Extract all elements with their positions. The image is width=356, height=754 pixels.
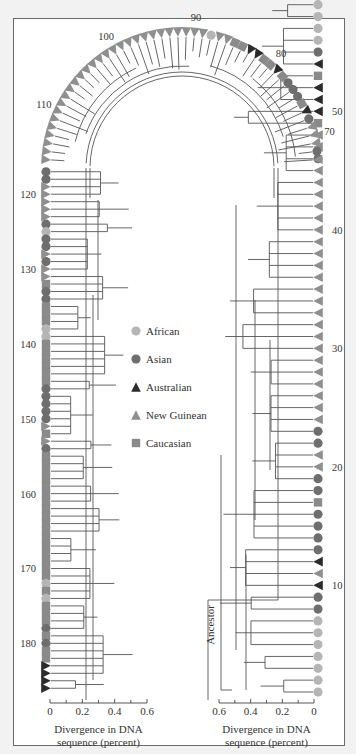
axis-tick-label: 0.6 [140, 705, 154, 717]
leaf-marker-new-guinean [313, 569, 323, 579]
leaf-marker-asian [313, 533, 322, 542]
legend-marker-asian [131, 354, 140, 363]
axis-title-line1: Divergence in DNA [222, 723, 310, 735]
legend-marker-new-guinean [131, 410, 141, 420]
leaf-marker-asian [313, 522, 322, 531]
legend-label: African [146, 325, 180, 337]
leaf-marker-caucasian [42, 310, 50, 318]
leaf-marker-african [313, 628, 322, 637]
tree-branches [51, 0, 313, 700]
leaf-marker-caucasian [42, 459, 50, 467]
leaf-marker-australian [41, 683, 51, 693]
leaf-marker-caucasian [42, 654, 50, 662]
leaf-marker-caucasian [42, 504, 50, 512]
leaf-marker-caucasian [42, 527, 50, 535]
leaf-marker-australian [313, 59, 323, 69]
leaf-marker-new-guinean [313, 284, 323, 294]
right-axis: 0.60.40.20Divergence in DNAsequence (per… [212, 699, 317, 749]
leaf-number-90: 90 [191, 12, 202, 23]
leaf-marker-caucasian [42, 549, 50, 557]
leaf-marker-new-guinean [313, 272, 323, 282]
leaf-marker-new-guinean [313, 391, 323, 401]
leaf-marker-australian [313, 557, 323, 567]
legend-marker-australian [131, 382, 141, 392]
leaf-number-40: 40 [332, 225, 343, 236]
axis-tick-label: 0.2 [275, 705, 289, 717]
leaf-marker-new-guinean [41, 155, 51, 165]
leaf-marker-african [313, 664, 322, 673]
leaf-marker-caucasian [42, 452, 50, 460]
leaf-marker-caucasian [42, 340, 50, 348]
leaf-marker-new-guinean [313, 367, 323, 377]
leaf-marker-new-guinean [313, 261, 323, 271]
leaf-number-10: 10 [332, 580, 343, 591]
leaf-number-150: 150 [20, 414, 36, 425]
leaf-marker-african [206, 30, 217, 41]
leaf-marker-caucasian [42, 474, 50, 482]
phylogenetic-tree: 1020304050607080901001101201301401501601… [0, 0, 356, 754]
leaf-marker-new-guinean [313, 237, 323, 247]
leaf-marker-new-guinean [156, 28, 167, 39]
leaf-marker-new-guinean [313, 190, 323, 200]
leaf-marker-asian [313, 510, 322, 519]
leaf-marker-australian [313, 107, 323, 117]
leaf-number-130: 130 [20, 264, 36, 275]
leaf-marker-new-guinean [41, 204, 51, 214]
leaf-marker-new-guinean [313, 355, 323, 365]
leaf-number-160: 160 [20, 489, 36, 500]
leaf-marker-new-guinean [313, 249, 323, 259]
leaf-marker-new-guinean [197, 28, 208, 39]
leaf-marker-african [41, 332, 50, 341]
leaf-marker-new-guinean [313, 332, 323, 342]
leaf-marker-new-guinean [313, 201, 323, 211]
leaf-marker-caucasian [42, 489, 50, 497]
leaf-marker-caucasian [42, 467, 50, 475]
leaf-marker-caucasian [42, 430, 50, 438]
axis-title-line1: Divergence in DNA [54, 723, 142, 735]
leaf-marker-asian [313, 427, 322, 436]
leaf-marker-new-guinean [42, 146, 53, 157]
leaf-marker-african [313, 24, 322, 33]
leaf-marker-asian [313, 439, 322, 448]
leaf-marker-caucasian [42, 302, 50, 310]
legend-label: Caucasian [146, 437, 192, 449]
leaf-marker-african [313, 687, 322, 696]
leaf-marker-new-guinean [41, 189, 51, 199]
left-axis: 00.20.40.6Divergence in DNAsequence (per… [47, 699, 154, 749]
leaf-marker-african [313, 676, 322, 685]
leaf-marker-caucasian [42, 482, 50, 490]
leaf-marker-new-guinean [313, 213, 323, 223]
axis-tick-label: 0.2 [75, 705, 89, 717]
leaf-number-50: 50 [332, 106, 343, 117]
leaf-marker-caucasian [42, 347, 50, 355]
leaf-marker-caucasian [314, 72, 322, 80]
leaf-marker-asian [313, 474, 322, 483]
axis-tick-label: 0 [47, 705, 53, 717]
leaf-marker-asian [313, 545, 322, 554]
leaf-marker-asian [313, 593, 322, 602]
leaf-marker-caucasian [314, 498, 322, 506]
leaf-marker-new-guinean [313, 308, 323, 318]
leaf-marker-new-guinean [313, 344, 323, 354]
leaf-number-80: 80 [276, 48, 287, 59]
leaf-marker-caucasian [42, 609, 50, 617]
leaf-marker-caucasian [42, 534, 50, 542]
leaf-marker-caucasian [42, 355, 50, 363]
leaf-number-70: 70 [324, 126, 335, 137]
leaf-marker-caucasian [42, 647, 50, 655]
leaf-marker-caucasian [42, 602, 50, 610]
leaf-marker-asian [41, 624, 50, 633]
leaf-number-180: 180 [20, 638, 36, 649]
leaf-marker-caucasian [42, 564, 50, 572]
legend-label: New Guinean [146, 409, 207, 421]
legend-label: Australian [146, 381, 192, 393]
leaf-marker-african [313, 0, 322, 9]
leaf-marker-new-guinean [313, 450, 323, 460]
leaf-marker-new-guinean [313, 296, 323, 306]
legend-marker-african [131, 326, 140, 335]
leaf-number-30: 30 [332, 343, 343, 354]
leaf-marker-new-guinean [189, 27, 199, 37]
leaf-marker-asian [41, 242, 50, 251]
leaf-marker-new-guinean [313, 320, 323, 330]
axis-tick-label: 0 [311, 705, 317, 717]
